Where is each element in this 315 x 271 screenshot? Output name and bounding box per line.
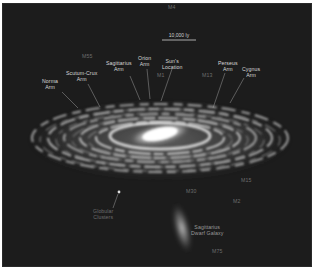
arm-label-orion: Orion Arm [138, 56, 151, 67]
arm-label-scutum-crux: Scutum-Crux Arm [66, 71, 97, 82]
galactic-disk [25, 100, 295, 180]
arm-label-cygnus: Cygnus Arm [242, 67, 260, 78]
globular-clusters-label: Globular Clusters [93, 209, 113, 220]
arm-label-norma: Norma Arm [42, 79, 58, 90]
cluster-label-m13: M13 [202, 73, 212, 79]
galaxy-illustration [0, 0, 315, 271]
sun-location-label: Sun's Location [162, 59, 182, 70]
cluster-label-m30: M30 [186, 189, 196, 195]
cluster-label-m2: M2 [233, 199, 240, 205]
sagittarius-dwarf-galaxy-label: Sagittarius Dwarf Galaxy [191, 225, 223, 236]
arm-label-sagittarius: Sagittarius Arm [106, 61, 132, 72]
arm-label-perseus: Perseus Arm [218, 61, 238, 72]
cluster-label-m4: M4 [168, 5, 175, 11]
cluster-label-m55: M55 [82, 54, 92, 60]
cluster-label-m1: M1 [157, 73, 164, 79]
cluster-label-m75: M75 [212, 249, 222, 255]
globular-cluster-dot [118, 191, 121, 194]
galaxy-diagram: M4 10,000 ly Norma Arm Scutum-Crux Arm S… [0, 0, 315, 271]
scale-bar-label: 10,000 ly [164, 32, 194, 38]
cluster-label-m15: M15 [241, 178, 251, 184]
